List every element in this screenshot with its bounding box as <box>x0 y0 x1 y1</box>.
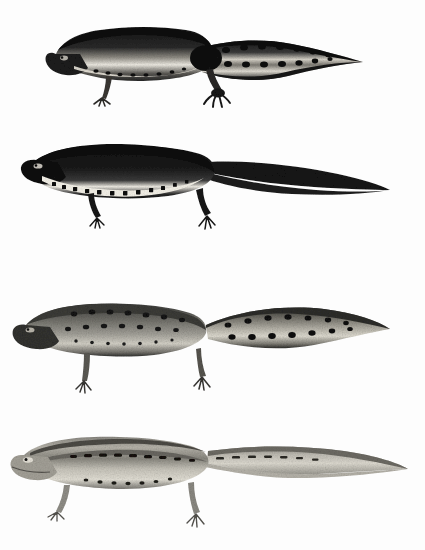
newt-figure-1-drawing <box>45 27 363 107</box>
newt-figure-4: Pale light-grey newt with longitudinal d… <box>0 425 425 550</box>
newt-figure-3: Mid-grey newt densely covered in round b… <box>0 285 425 415</box>
newt-figure-4-drawing <box>11 437 408 527</box>
newt-figure-2: Very dark, near-black newt with bold whi… <box>0 132 425 262</box>
newt-figure-1: Male crested/smooth newt in breeding dre… <box>0 0 425 130</box>
illustration-plate: Newts — comparative plate <box>0 0 425 550</box>
newt-figure-2-drawing <box>21 144 390 229</box>
newt-figure-3-drawing <box>13 303 390 393</box>
